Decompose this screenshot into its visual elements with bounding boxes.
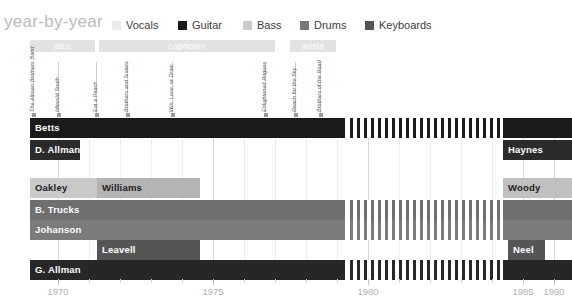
legend-swatch-icon [112,21,121,30]
record-label-band: atcocapricornarista [0,40,572,52]
legend-swatch-icon [300,21,309,30]
legend-swatch-icon [178,21,187,30]
member-row: D. AllmanHaynes [0,140,572,160]
axis-tick [89,279,90,283]
album-marker-dot-icon [95,113,99,117]
timeline-bar[interactable] [350,260,500,280]
album-marker-dot-icon [171,113,175,117]
album-marker-dot-icon [126,113,130,117]
member-name: Neel [513,240,534,260]
album-title: Brothers and Sisters [123,61,129,112]
axis-tick [275,279,276,283]
legend-label: Drums [314,19,346,31]
timeline-bar[interactable]: Williams [97,178,200,198]
legend-swatch-icon [365,21,374,30]
timeline-bar[interactable]: Woody [503,178,572,198]
legend-item-keyboards[interactable]: Keyboards [365,15,432,29]
legend-label: Vocals [126,19,158,31]
axis-tick-label: 1990 [543,286,564,297]
member-name: Woody [508,178,541,198]
member-row: OakleyWilliamsWoody [0,178,572,198]
timeline-bar[interactable]: Neel [508,240,545,260]
axis-tick [244,279,245,283]
album-marker-dot-icon [57,113,61,117]
axis-tick [492,279,493,283]
album-marker-dot-icon [32,113,36,117]
timeline-bar[interactable]: Betts [30,118,345,138]
axis-tick [306,279,307,283]
member-name: G. Allman [35,260,81,280]
timeline-bar[interactable]: B. Trucks [30,200,345,220]
axis-tick [430,279,431,283]
legend-item-bass[interactable]: Bass [243,15,281,29]
axis-tick [58,279,59,285]
album-title: Brothers of the Road [316,60,322,112]
axis-tick [523,279,524,285]
album-title: Eat a Peach [92,82,98,112]
page-title: year-by-year [4,12,103,32]
member-row: B. Trucks [0,200,572,220]
timeline-bar[interactable] [503,260,572,280]
member-name: Oakley [35,178,67,198]
album-markers: The Allman Brothers BandIdlewild SouthEa… [0,56,572,118]
timeline-bar[interactable] [350,200,500,220]
member-name: Johanson [35,220,81,240]
member-row: G. Allman [0,260,572,280]
member-row: Johanson [0,220,572,240]
record-label-arista: arista [290,40,336,52]
member-name: B. Trucks [35,200,80,220]
year-by-year-chart: year-by-year VocalsGuitarBassDrumsKeyboa… [0,0,572,305]
member-row: LeavellNeel [0,240,572,260]
timeline-bar[interactable]: Johanson [30,220,345,240]
timeline-bar[interactable] [503,118,572,138]
album-title: The Allman Brothers Band [29,47,35,112]
record-label-atco: atco [30,40,95,52]
member-name: Betts [35,118,60,138]
axis-tick [399,279,400,283]
legend-item-guitar[interactable]: Guitar [178,15,222,29]
member-name: Williams [102,178,142,198]
timeline-bar[interactable] [350,220,500,240]
timeline-bar[interactable]: D. Allman [30,140,80,160]
legend-label: Guitar [192,19,222,31]
timeline-bar[interactable] [503,200,572,220]
album-marker-dot-icon [319,113,323,117]
x-axis: 19701975198019851990 [0,279,572,305]
axis-tick-label: 1975 [202,286,223,297]
legend-label: Bass [257,19,281,31]
album-marker-dot-icon [264,113,268,117]
member-name: D. Allman [35,140,80,160]
album-title: Enlightened Rogues [261,62,267,112]
album-title: Idlewild South [54,77,60,112]
axis-tick-label: 1980 [357,286,378,297]
timeline-bar[interactable] [503,220,572,240]
timeline-bar[interactable]: Haynes [503,140,572,160]
timeline-bar[interactable]: G. Allman [30,260,345,280]
legend-item-vocals[interactable]: Vocals [112,15,158,29]
axis-tick [461,279,462,283]
axis-tick [368,279,369,285]
axis-tick [213,279,214,285]
album-marker-dot-icon [294,113,298,117]
axis-tick [120,279,121,283]
album-title: Win, Lose, or Draw [168,64,174,112]
axis-tick [182,279,183,283]
axis-tick [337,279,338,283]
record-label-capricorn: capricorn [99,40,275,52]
axis-tick-label: 1970 [47,286,68,297]
album-title: Reach for the Sky [291,67,297,112]
axis-tick [151,279,152,283]
axis-tick-label: 1985 [512,286,533,297]
member-row: Betts [0,118,572,138]
member-name: Leavell [102,240,136,260]
timeline-bar[interactable]: Leavell [97,240,200,260]
legend-item-drums[interactable]: Drums [300,15,346,29]
plot-area: BettsD. AllmanHaynesOakleyWilliamsWoodyB… [0,118,572,278]
legend-swatch-icon [243,21,252,30]
member-name: Haynes [508,140,543,160]
legend-label: Keyboards [379,19,432,31]
timeline-bar[interactable]: Oakley [30,178,97,198]
axis-tick [554,279,555,285]
timeline-bar[interactable] [350,118,500,138]
chart-header: year-by-year VocalsGuitarBassDrumsKeyboa… [0,12,572,34]
